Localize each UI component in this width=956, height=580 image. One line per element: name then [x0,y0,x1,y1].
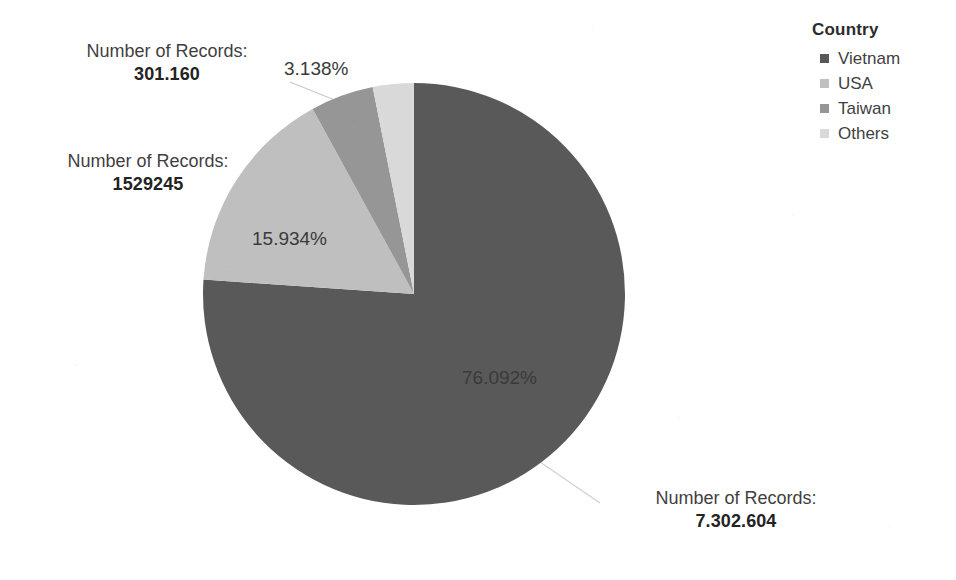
legend-swatch-others [820,129,829,138]
legend-label-vietnam: Vietnam [838,49,900,69]
legend: Country Vietnam USA Taiwan Others [812,20,948,146]
callout-others-value: 301.160 [32,63,302,86]
legend-title: Country [812,20,948,40]
leader-line-vietnam [540,462,600,503]
legend-swatch-usa [820,79,829,88]
legend-item-usa[interactable]: USA [812,71,948,96]
slice-label-usa-percent: 15.934% [252,228,327,249]
legend-item-others[interactable]: Others [812,121,948,146]
legend-item-taiwan[interactable]: Taiwan [812,96,948,121]
legend-label-others: Others [838,124,889,144]
callout-usa-value: 1529245 [22,173,274,196]
slice-label-vietnam-percent: 76.092% [462,367,537,388]
legend-label-taiwan: Taiwan [838,99,891,119]
callout-vietnam-value: 7.302.604 [596,510,876,533]
legend-swatch-taiwan [820,104,829,113]
callout-vietnam-caption: Number of Records: [655,488,816,508]
callout-others-caption: Number of Records: [86,41,247,61]
pie-chart-figure: 76.092% 15.934% 3.138% Number of Records… [0,0,956,580]
legend-item-vietnam[interactable]: Vietnam [812,46,948,71]
callout-vietnam: Number of Records: 7.302.604 [596,487,876,534]
legend-swatch-vietnam [820,54,829,63]
callout-usa-caption: Number of Records: [67,151,228,171]
callout-others: Number of Records: 301.160 [32,40,302,87]
legend-label-usa: USA [838,74,873,94]
callout-usa: Number of Records: 1529245 [22,150,274,197]
